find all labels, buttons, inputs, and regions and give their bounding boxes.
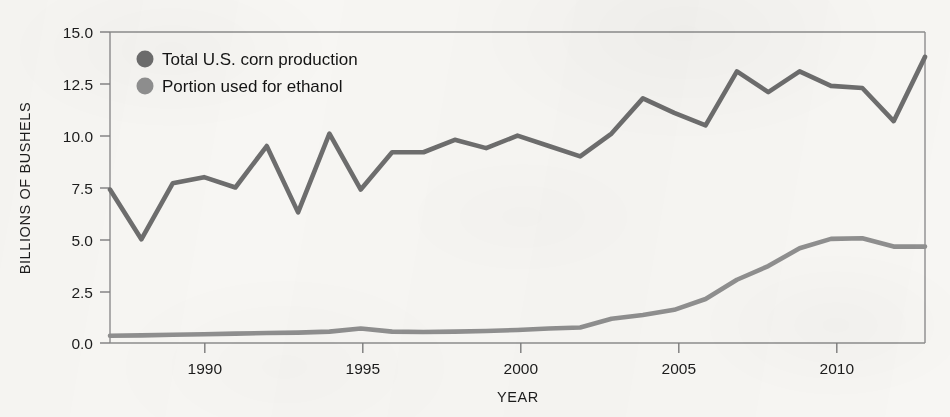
series-line-corn-production	[110, 238, 925, 335]
x-axis-ticks	[205, 343, 837, 353]
legend-marker-corn-production	[137, 51, 154, 68]
x-axis-tick-labels: 1990 1995 2000 2005 2010	[188, 360, 855, 377]
y-axis-title: BILLIONS OF BUSHELS	[17, 102, 33, 275]
legend-label-ethanol-portion: Portion used for ethanol	[162, 77, 343, 96]
x-tick-label: 2010	[820, 360, 855, 377]
y-axis-tick-labels: 15.0 12.5 10.0 7.5 5.0 2.5 0.0	[63, 24, 94, 352]
y-tick-label: 7.5	[71, 180, 93, 197]
x-tick-label: 1990	[188, 360, 223, 377]
legend-marker-ethanol-portion	[137, 78, 154, 95]
y-tick-label: 2.5	[71, 284, 93, 301]
x-tick-label: 2005	[662, 360, 696, 377]
x-tick-label: 2000	[504, 360, 539, 377]
y-tick-label: 15.0	[63, 24, 94, 41]
x-axis-title: YEAR	[497, 389, 539, 405]
series-group	[110, 57, 925, 336]
y-tick-label: 5.0	[71, 232, 93, 249]
legend: Total U.S. corn production Portion used …	[137, 50, 358, 96]
y-tick-label: 12.5	[63, 76, 93, 93]
y-tick-label: 10.0	[63, 128, 94, 145]
y-axis-ticks	[100, 32, 110, 343]
line-chart: 15.0 12.5 10.0 7.5 5.0 2.5 0.0 BILLIONS …	[0, 0, 950, 417]
y-tick-label: 0.0	[71, 335, 93, 352]
chart-screenshot: 15.0 12.5 10.0 7.5 5.0 2.5 0.0 BILLIONS …	[0, 0, 950, 417]
legend-label-corn-production: Total U.S. corn production	[162, 50, 358, 69]
x-tick-label: 1995	[346, 360, 380, 377]
